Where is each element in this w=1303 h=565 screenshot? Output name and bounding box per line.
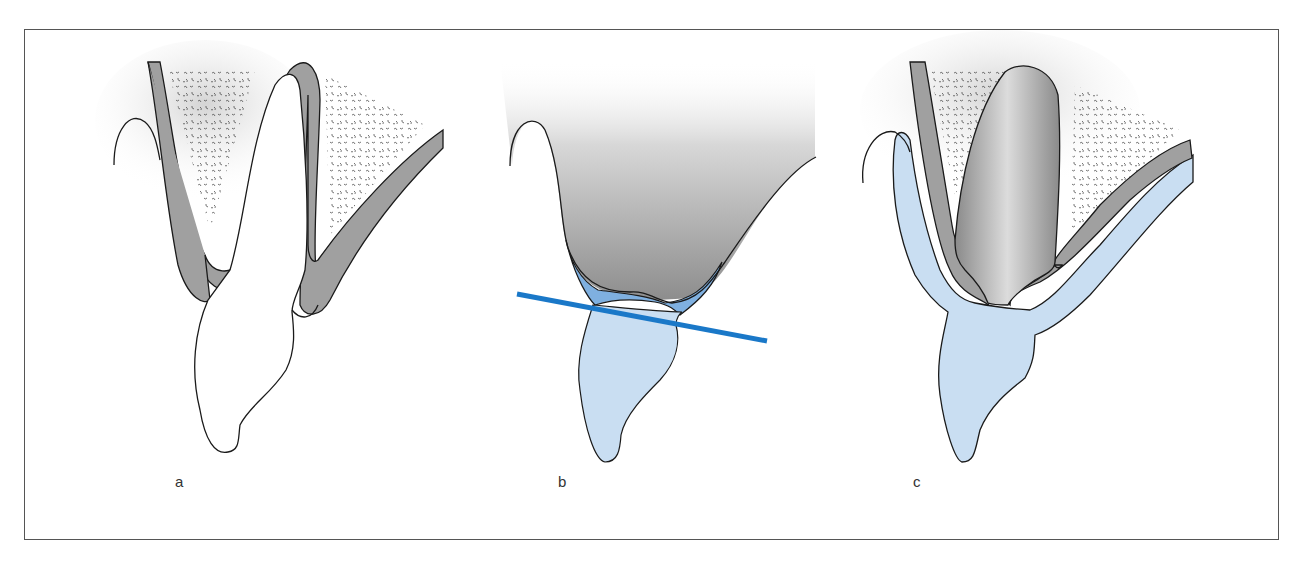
panel-c-drawing	[860, 30, 1193, 462]
pontic-crown	[579, 305, 682, 462]
panel-label-c: c	[913, 473, 921, 490]
panel-label-a: a	[175, 473, 183, 490]
panel-a-drawing	[95, 40, 443, 452]
panel-b-drawing	[500, 60, 816, 462]
panel-label-b: b	[558, 473, 566, 490]
soft-tissue-mass	[500, 60, 815, 300]
dental-diagram	[0, 0, 1303, 565]
